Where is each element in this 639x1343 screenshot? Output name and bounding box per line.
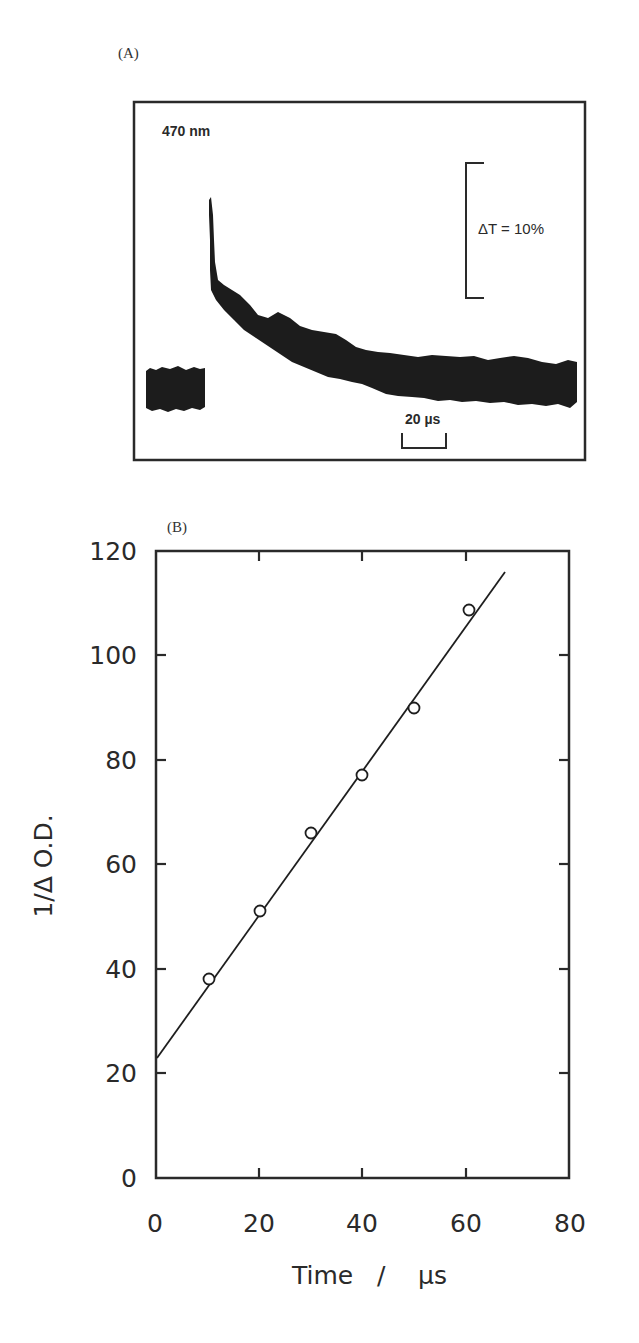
svg-text:80: 80 (554, 1209, 586, 1238)
baseline-trace (146, 366, 205, 412)
data-point (464, 605, 475, 616)
x-tick-labels: 0 20 40 60 80 (147, 1209, 586, 1238)
svg-text:0: 0 (147, 1209, 163, 1238)
vertical-scale-label: ΔT = 10% (478, 220, 544, 237)
time-scale-bracket (402, 433, 446, 448)
data-point (306, 828, 317, 839)
y-axis-title: 1/Δ O.D. (29, 814, 58, 917)
data-point (357, 770, 368, 781)
svg-text:20: 20 (105, 1059, 137, 1088)
x-axis-title-unit: µs (418, 1261, 447, 1290)
panel-b-frame (156, 551, 569, 1178)
data-point (255, 906, 266, 917)
svg-text:40: 40 (346, 1209, 378, 1238)
data-point (204, 974, 215, 985)
y-tick-labels: 120 100 80 60 40 20 0 (89, 537, 137, 1193)
svg-text:60: 60 (450, 1209, 482, 1238)
panel-a: 470 nm ΔT = 10% 20 µs (134, 102, 585, 460)
y-ticks (156, 551, 569, 1178)
data-point (409, 703, 420, 714)
svg-text:80: 80 (105, 746, 137, 775)
x-axis-title-time: Time (291, 1261, 353, 1290)
svg-text:120: 120 (89, 537, 137, 566)
x-axis-title-sep: / (377, 1261, 386, 1290)
svg-text:100: 100 (89, 641, 137, 670)
data-points (204, 605, 475, 985)
svg-text:40: 40 (105, 955, 137, 984)
svg-text:60: 60 (105, 850, 137, 879)
wavelength-label: 470 nm (162, 123, 210, 139)
time-scale-label: 20 µs (405, 411, 441, 427)
svg-text:0: 0 (121, 1164, 137, 1193)
svg-text:20: 20 (243, 1209, 275, 1238)
panel-b: 120 100 80 60 40 20 0 0 20 40 60 80 (29, 537, 586, 1290)
